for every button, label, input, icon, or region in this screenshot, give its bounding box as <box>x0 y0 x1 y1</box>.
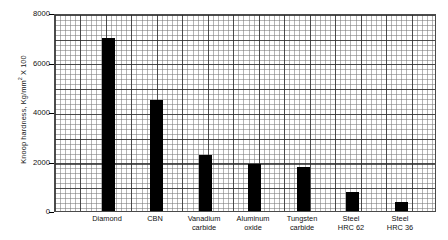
bar <box>346 192 359 211</box>
bar <box>297 167 310 211</box>
x-tick-label-line2: oxide <box>225 223 281 232</box>
x-tick-label-line1: Steel <box>392 214 409 223</box>
bar <box>248 164 261 211</box>
bar <box>150 100 163 211</box>
x-tick-label-line1: Vanadium <box>188 214 221 223</box>
y-tick-label: 2000 <box>22 159 50 167</box>
x-tick-label: CBN <box>127 214 183 223</box>
x-axis-tick-labels: DiamondCBNVanadiumcarbideAluminumoxideTu… <box>54 214 436 240</box>
plot-area <box>54 14 436 212</box>
x-tick-label-line1: Steel <box>343 214 360 223</box>
y-tick-label: 8000 <box>22 10 50 18</box>
x-tick-label: SteelHRC 36 <box>372 214 428 233</box>
bar <box>102 38 115 211</box>
x-tick-label-line2: HRC 36 <box>372 223 428 232</box>
x-tick-label: Tungstencarbide <box>274 214 330 233</box>
x-tick-label-line1: Diamond <box>92 214 122 223</box>
y-tick-mark <box>49 212 54 213</box>
knoop-hardness-bar-chart: Knoop hardness, Kg/mm2 X 100 02000400060… <box>0 0 448 240</box>
x-tick-label: Vanadiumcarbide <box>176 214 232 233</box>
x-tick-label-line2: HRC 62 <box>323 223 379 232</box>
x-tick-label: SteelHRC 62 <box>323 214 379 233</box>
y-tick-label: 0 <box>22 208 50 216</box>
y-axis-tick-labels: 02000400060008000 <box>20 0 50 240</box>
x-tick-label: Aluminumoxide <box>225 214 281 233</box>
x-tick-label-line2: carbide <box>176 223 232 232</box>
x-tick-label-line1: Tungsten <box>287 214 318 223</box>
x-tick-label-line1: CBN <box>147 214 163 223</box>
x-tick-label-line2: carbide <box>274 223 330 232</box>
x-tick-label-line1: Aluminum <box>237 214 270 223</box>
y-tick-label: 6000 <box>22 60 50 68</box>
bar <box>395 202 408 211</box>
bar <box>199 155 212 211</box>
y-tick-label: 4000 <box>22 109 50 117</box>
